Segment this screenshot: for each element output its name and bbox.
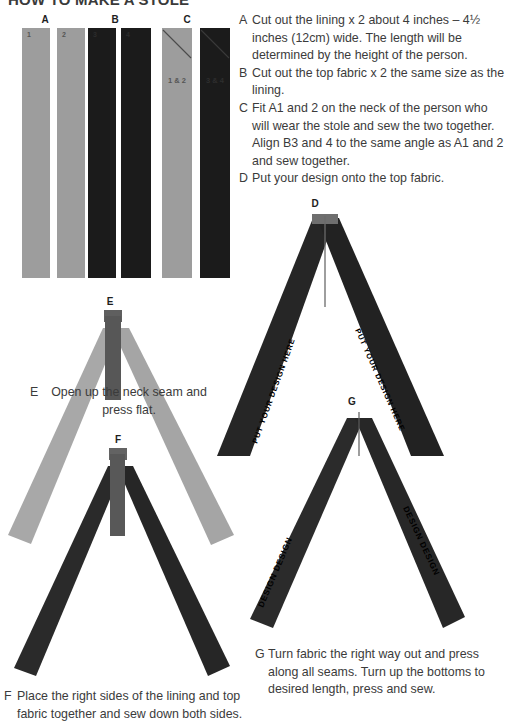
strip-number: 4 [126,31,130,38]
fabric-strip-c-lining: 1 & 2 [162,28,192,278]
diagram-label-f: F [103,434,133,445]
group-label-c: C [172,14,202,25]
instruction-item-d: D Put your design onto the top fabric. [239,170,505,188]
caption-key-e: E [30,384,43,402]
bias-cut-line [162,28,192,74]
caption-g: G Turn fabric the right way out and pres… [255,646,500,699]
instruction-item-c: C Fit A1 and 2 on the neck of the person… [239,100,505,170]
diagram-label-e: E [95,296,125,307]
strip-number: 1 & 2 [162,76,192,85]
instruction-key: C [239,100,252,118]
instruction-item-a: A Cut out the lining x 2 about 4 inches … [239,12,505,65]
diagram-label-g: G [337,396,367,407]
fabric-strip-b3: 3 [88,28,116,278]
instruction-key: B [239,65,252,83]
instruction-list: A Cut out the lining x 2 about 4 inches … [239,12,505,188]
diagram-label-d: D [300,198,330,209]
caption-text-e: Open up the neck seam and press flat. [43,384,215,419]
caption-text-g: Turn fabric the right way out and press … [268,646,500,699]
fabric-strip-a2: 2 [57,28,85,278]
fabric-strip-b4: 4 [121,28,151,278]
group-label-a: A [30,14,60,25]
instruction-key: A [239,12,252,30]
instruction-key: D [239,170,252,188]
strip-number: 3 [93,31,97,38]
instruction-text: Put your design onto the top fabric. [252,170,505,188]
caption-key-f: F [4,688,17,706]
fabric-strip-a1: 1 [22,28,50,278]
caption-key-g: G [255,646,268,664]
diagram-g: DESIGN DESIGN DESIGN DESIGN [243,412,478,637]
strip-number: 1 [27,31,31,38]
strip-number: 3 & 4 [200,76,230,85]
group-label-b: B [100,14,130,25]
instruction-text: Fit A1 and 2 on the neck of the person w… [252,100,505,170]
caption-e: E Open up the neck seam and press flat. [30,384,215,419]
caption-text-f: Place the right sides of the lining and … [17,688,254,723]
instruction-item-b: B Cut out the top fabric x 2 the same si… [239,65,505,100]
page-title: HOW TO MAKE A STOLE [8,0,189,8]
instruction-text: Cut out the lining x 2 about 4 inches – … [252,12,505,65]
strip-number: 2 [62,31,66,38]
caption-f: F Place the right sides of the lining an… [4,688,254,723]
bias-cut-line [200,28,230,74]
instruction-text: Cut out the top fabric x 2 the same size… [252,65,505,100]
stole-instruction-sheet: HOW TO MAKE A STOLE A B C 1 2 3 4 1 & 2 … [0,0,510,728]
diagram-f [8,448,248,683]
